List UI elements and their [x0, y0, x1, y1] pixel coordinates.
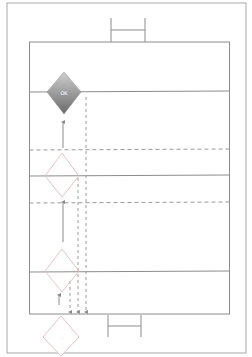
decision-lower[interactable] — [45, 249, 79, 292]
bottom-bracket — [108, 315, 141, 337]
decision-middle[interactable] — [45, 153, 79, 197]
decision-bottom-label: ... — [59, 334, 64, 340]
diamond-shape-lower — [45, 249, 79, 292]
top-bracket — [111, 18, 145, 42]
diagram-canvas: OK ... — [0, 0, 252, 357]
dashed-guide-1 — [30, 149, 230, 150]
dashed-guide-2 — [30, 202, 230, 203]
diamond-shape-middle — [45, 153, 79, 197]
decision-top[interactable]: OK — [47, 72, 81, 114]
outer-frame — [7, 3, 246, 353]
decision-top-label: OK — [60, 90, 68, 96]
decision-bottom[interactable]: ... — [43, 316, 79, 356]
